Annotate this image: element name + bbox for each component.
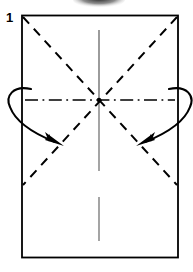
origami-diagram-canvas (0, 0, 193, 272)
step-number-label: 1 (6, 11, 13, 24)
origami-diagram-figure: 1 (0, 0, 193, 272)
scan-smudge-top-icon (73, 0, 125, 8)
paper-rectangle (22, 16, 178, 258)
centre-convergence-point (97, 98, 102, 103)
